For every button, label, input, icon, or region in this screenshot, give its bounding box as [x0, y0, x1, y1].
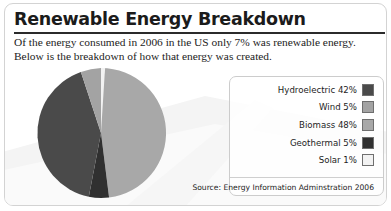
- intro-paragraph: Of the energy consumed in 2006 in the US…: [14, 36, 314, 63]
- legend-swatch-geothermal: [362, 137, 374, 149]
- legend-swatch-wind: [362, 101, 374, 113]
- legend-item-solar[interactable]: Solar 1%: [230, 151, 383, 169]
- legend-swatch-hydroelectric: [362, 84, 374, 96]
- source-credit: Source: Energy Information Adminstration…: [192, 183, 374, 192]
- legend-list: Hydroelectric 42% Wind 5% Biomass 48% Ge…: [230, 81, 383, 169]
- legend-divider: [230, 177, 383, 178]
- header: Renewable Energy Breakdown: [14, 9, 374, 34]
- pie-chart: [31, 66, 179, 200]
- legend-label-hydroelectric: Hydroelectric 42%: [278, 85, 357, 95]
- intro-line-1: Of the energy consumed in 2006 in the US…: [14, 36, 314, 50]
- legend-label-solar: Solar 1%: [319, 155, 357, 165]
- page-title: Renewable Energy Breakdown: [14, 9, 374, 30]
- legend-label-biomass: Biomass 48%: [299, 120, 357, 130]
- card-frame: Renewable Energy Breakdown Of the energy…: [4, 3, 387, 206]
- pie-slice-biomass: [101, 68, 166, 198]
- legend-item-hydroelectric[interactable]: Hydroelectric 42%: [230, 81, 383, 99]
- legend-panel: Hydroelectric 42% Wind 5% Biomass 48% Ge…: [229, 76, 384, 196]
- legend-label-wind: Wind 5%: [319, 102, 357, 112]
- pie-chart-svg: [31, 66, 179, 200]
- legend-item-biomass[interactable]: Biomass 48%: [230, 116, 383, 134]
- title-underline: [14, 32, 385, 34]
- legend-label-geothermal: Geothermal 5%: [290, 138, 357, 148]
- legend-swatch-biomass: [362, 119, 374, 131]
- legend-item-geothermal[interactable]: Geothermal 5%: [230, 134, 383, 152]
- infographic-card: Renewable Energy Breakdown Of the energy…: [0, 0, 391, 211]
- legend-item-wind[interactable]: Wind 5%: [230, 99, 383, 117]
- legend-swatch-solar: [362, 154, 374, 166]
- intro-line-2: Below is the breakdown of how that energ…: [14, 50, 314, 64]
